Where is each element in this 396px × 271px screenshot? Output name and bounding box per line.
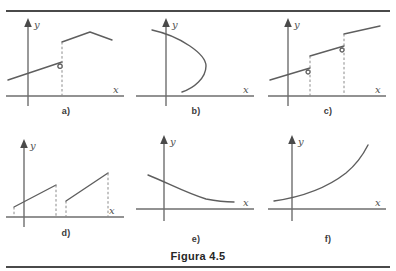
x-axis-label: x: [375, 197, 381, 208]
panel-b-graph: y x: [130, 14, 262, 110]
panel-b: y x b): [130, 14, 262, 126]
panel-a-label: a): [0, 106, 132, 116]
curve-right-branch: [62, 32, 112, 42]
curve-tooth-2: [66, 173, 108, 201]
x-axis-label: x: [113, 84, 119, 95]
y-axis-label: y: [29, 140, 36, 151]
curve-step-2: [310, 46, 344, 56]
curve-sideways-parabola: [152, 30, 206, 92]
y-axis-label: y: [171, 19, 178, 30]
panel-e-label: e): [130, 234, 262, 244]
curve-step-1: [270, 68, 310, 80]
panel-a: y x a): [0, 14, 132, 126]
curve-left-branch: [8, 62, 62, 80]
y-axis-label: y: [33, 19, 40, 30]
curve-decay: [148, 175, 234, 202]
panel-d-label: d): [0, 228, 132, 238]
panel-e: y x e): [130, 133, 262, 245]
bottom-divider-rule: [6, 266, 390, 268]
y-axis-label: y: [297, 136, 304, 147]
panel-b-label: b): [130, 106, 262, 116]
figure-page: y x a) y x b) y x: [0, 0, 396, 271]
x-axis-label: x: [243, 197, 249, 208]
panel-d-graph: y x: [0, 133, 132, 229]
panel-a-graph: y x: [0, 14, 132, 110]
y-axis-arrowhead: [24, 18, 32, 27]
y-axis-arrowhead: [284, 18, 292, 27]
panel-c: y x c): [262, 14, 394, 126]
y-axis-arrowhead: [20, 139, 28, 148]
panel-f: y x f): [262, 133, 394, 245]
open-endpoint-marker-1: [306, 70, 310, 74]
curve-step-3: [344, 26, 380, 34]
y-axis-label: y: [293, 19, 300, 30]
panel-f-label: f): [262, 234, 394, 244]
curve-tooth-1: [14, 185, 56, 207]
curve-growth: [274, 145, 368, 201]
panel-e-graph: y x: [130, 133, 262, 229]
figure-caption: Figura 4.5: [0, 250, 396, 262]
panel-c-graph: y x: [262, 14, 394, 110]
y-axis-arrowhead: [162, 18, 170, 27]
x-axis-label: x: [375, 84, 381, 95]
panel-d: y x d): [0, 133, 132, 245]
y-axis-arrowhead: [288, 135, 296, 144]
panel-c-label: c): [262, 106, 394, 116]
y-axis-arrowhead: [160, 135, 168, 144]
open-endpoint-marker-2: [340, 48, 344, 52]
x-axis-label: x: [243, 84, 249, 95]
panel-f-graph: y x: [262, 133, 394, 229]
top-divider-rule: [6, 10, 390, 12]
x-axis-label: x: [109, 205, 115, 216]
y-axis-label: y: [169, 136, 176, 147]
